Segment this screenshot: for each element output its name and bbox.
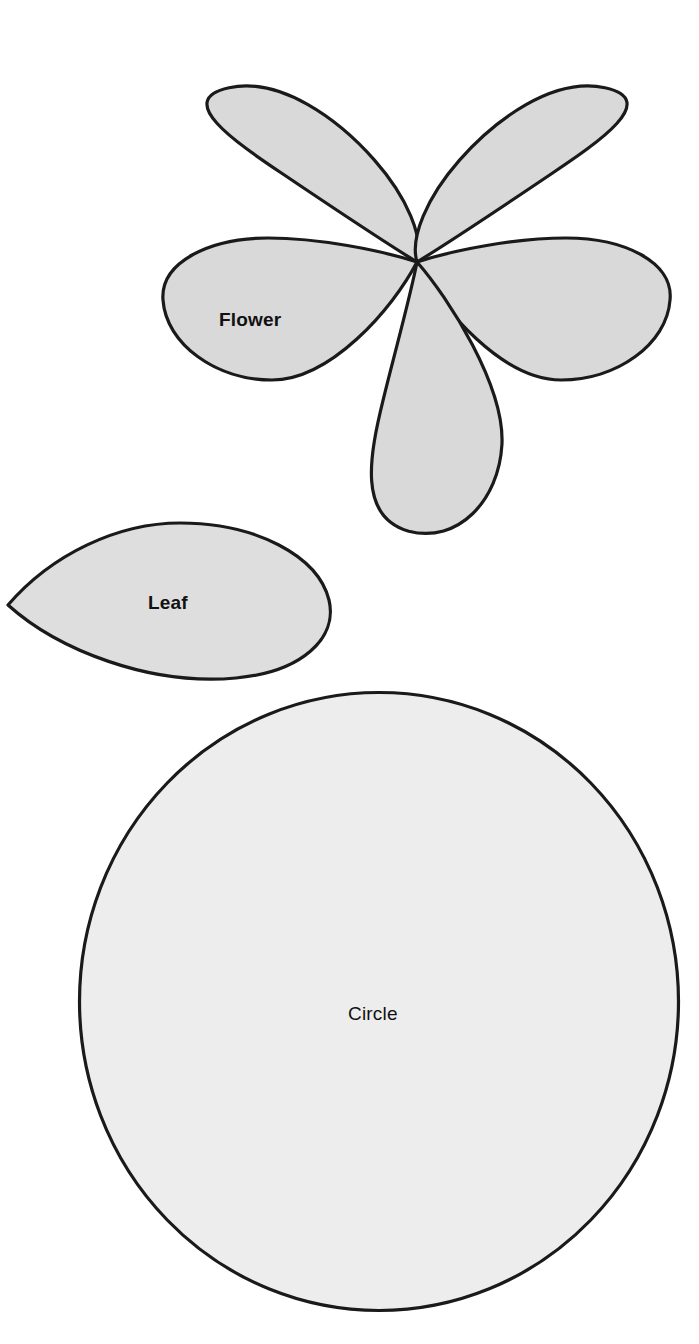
flower-label: Flower (219, 309, 281, 331)
shapes-canvas (0, 0, 699, 1344)
leaf-label: Leaf (148, 592, 188, 614)
circle-label: Circle (348, 1003, 398, 1025)
flower-shape[interactable] (163, 44, 670, 537)
flower-petal-left (163, 238, 417, 380)
circle-shape[interactable] (80, 693, 679, 1311)
circle-outline (80, 693, 679, 1311)
